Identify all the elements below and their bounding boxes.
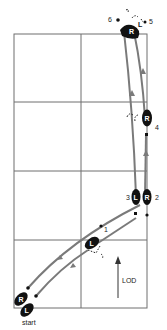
- lod-label: LOD: [122, 277, 136, 284]
- heel-dot-icon: [145, 133, 148, 136]
- step-number: 1: [104, 226, 108, 233]
- heel-dot-icon: [34, 294, 38, 298]
- rotation-dash-icon: [101, 254, 103, 259]
- step-foot-label: R: [145, 115, 150, 122]
- start-foot-label: L: [25, 307, 30, 314]
- lod-arrow-icon: [115, 256, 121, 264]
- step-number: 4: [155, 124, 159, 131]
- arrow-icon: [70, 263, 76, 268]
- right-foot-path-2: [145, 135, 146, 196]
- step-number: 3: [126, 194, 130, 201]
- start-feet: R L start: [12, 286, 38, 326]
- right-foot-path-3: [134, 32, 145, 118]
- heel-dot-icon: [99, 224, 102, 227]
- rotation-dash-icon: [132, 16, 138, 18]
- step-number: 2: [155, 194, 159, 201]
- step-number: 6: [108, 16, 112, 23]
- step-foot-label: L: [138, 21, 143, 28]
- arrow-icon: [143, 150, 149, 156]
- foot-paths: [28, 32, 149, 296]
- left-foot-path-1: [36, 250, 88, 296]
- floor-grid: [14, 34, 147, 308]
- step-foot-label: L: [134, 194, 139, 201]
- heel-dot-icon: [134, 212, 137, 215]
- heel-dot-icon: [144, 21, 147, 24]
- step-foot-label: L: [90, 240, 95, 247]
- start-label: start: [22, 319, 36, 326]
- start-foot-label: R: [19, 296, 24, 303]
- step-number: 5: [149, 18, 153, 25]
- rotation-dash-icon: [135, 115, 138, 121]
- step-foot-label: R: [129, 28, 134, 35]
- right-foot-path-1: [28, 205, 140, 288]
- rotation-dash-icon: [126, 9, 128, 13]
- heel-dot-icon: [116, 18, 120, 22]
- step-foot-label: R: [145, 194, 150, 201]
- dance-floor-diagram: R L start L 1 R 2 L 3 R 4 R: [0, 0, 167, 330]
- step-2-3: R 2 L 3: [126, 189, 159, 217]
- line-of-dance-indicator: LOD: [115, 256, 136, 298]
- heel-dot-icon: [145, 213, 148, 216]
- heel-dot-icon: [26, 286, 30, 290]
